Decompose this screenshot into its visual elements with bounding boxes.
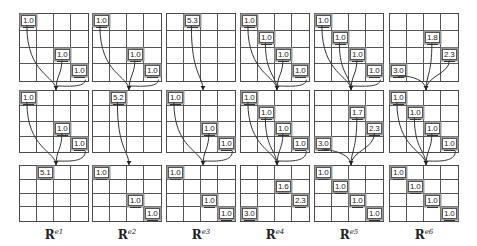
matrix-cell: 1.0 — [71, 64, 88, 81]
matrix-cell — [332, 137, 349, 152]
matrix-cell — [71, 194, 88, 208]
cell-value: 5.2 — [111, 92, 126, 103]
matrix-cell — [184, 48, 201, 65]
matrix-cell — [332, 194, 349, 208]
matrix-cell: 1.0 — [349, 48, 366, 65]
cell-value: 1.0 — [55, 49, 70, 60]
matrix-cell — [20, 31, 37, 48]
label-superscript: e5 — [350, 228, 359, 236]
matrix-cell — [144, 106, 161, 121]
matrix-grid: 1.01.01.0 — [166, 90, 236, 153]
matrix-cell — [110, 48, 127, 65]
matrix-cell — [407, 48, 424, 65]
matrix-cell — [441, 180, 458, 194]
label-base: R — [45, 228, 55, 242]
matrix-cell — [275, 106, 292, 121]
matrix-cell: 3.0 — [390, 64, 407, 81]
matrix-cell — [424, 14, 441, 31]
matrix-cell — [93, 31, 110, 48]
matrix-cell — [275, 91, 292, 106]
label-base: R — [266, 228, 276, 242]
matrix-cell — [241, 166, 258, 180]
matrix-cell — [332, 122, 349, 137]
matrix-cell: 1.0 — [441, 207, 458, 221]
matrix-cell — [110, 180, 127, 194]
matrix-cell — [407, 31, 424, 48]
matrix-grid: 1.01.01.01.0 — [389, 165, 459, 222]
matrix-grid: 1.01.01.0 — [92, 13, 162, 82]
matrix-cell: 3.0 — [241, 207, 258, 221]
matrix-cell — [167, 137, 184, 152]
cell-value: 1.0 — [391, 167, 406, 178]
matrix-cell — [127, 207, 144, 221]
matrix-cell — [127, 106, 144, 121]
matrix-cell — [424, 91, 441, 106]
matrix-cell — [292, 91, 309, 106]
matrix-cell: 1.0 — [349, 194, 366, 208]
matrix-cell — [366, 106, 383, 121]
matrix-cell — [54, 91, 71, 106]
matrix-cell — [292, 122, 309, 137]
matrix-cell — [407, 14, 424, 31]
matrix-cell: 1.0 — [315, 14, 332, 31]
matrix-cell — [424, 137, 441, 152]
matrix-cell — [441, 166, 458, 180]
matrix-cell — [332, 106, 349, 121]
matrix-cell — [20, 137, 37, 152]
cell-value: 1.0 — [219, 208, 234, 219]
matrix-cell — [93, 48, 110, 65]
matrix-cell — [20, 48, 37, 65]
matrix-cell — [424, 207, 441, 221]
matrix-cell — [349, 122, 366, 137]
label-superscript: e1 — [55, 228, 64, 236]
matrix-cell: 1.0 — [93, 14, 110, 31]
matrix-cell — [241, 31, 258, 48]
matrix-cell — [93, 91, 110, 106]
matrix-cell — [349, 14, 366, 31]
matrix-cell — [441, 64, 458, 81]
matrix-cell — [20, 64, 37, 81]
matrix-cell — [275, 166, 292, 180]
matrix-cell — [407, 166, 424, 180]
matrix-cell — [424, 166, 441, 180]
matrix-cell — [241, 137, 258, 152]
matrix-cell — [218, 166, 235, 180]
matrix-cell — [407, 194, 424, 208]
matrix-cell — [407, 64, 424, 81]
matrix-cell — [167, 48, 184, 65]
matrix-cell — [407, 91, 424, 106]
cell-value: 2.3 — [293, 195, 308, 206]
matrix-cell — [315, 194, 332, 208]
matrix-cell: 1.0 — [332, 31, 349, 48]
matrix-cell — [127, 31, 144, 48]
matrix-cell — [37, 122, 54, 137]
matrix-cell — [390, 122, 407, 137]
matrix-cell — [201, 91, 218, 106]
cell-value: 1.0 — [408, 181, 423, 192]
matrix-cell — [184, 137, 201, 152]
matrix-cell: 1.0 — [332, 180, 349, 194]
matrix-cell — [201, 207, 218, 221]
matrix-cell — [292, 14, 309, 31]
cell-value: 1.0 — [145, 65, 160, 76]
matrix-cell: 1.0 — [201, 194, 218, 208]
matrix-cell — [366, 31, 383, 48]
matrix-cell — [241, 194, 258, 208]
matrix-cell — [315, 48, 332, 65]
matrix-cell — [366, 180, 383, 194]
cell-value: 1.0 — [21, 15, 36, 26]
cell-value: 1.0 — [94, 15, 109, 26]
cell-value: 1.0 — [391, 92, 406, 103]
matrix-cell: 1.0 — [407, 106, 424, 121]
matrix-cell — [366, 166, 383, 180]
matrix-cell — [127, 14, 144, 31]
cell-value: 1.0 — [442, 138, 457, 149]
matrix-cell — [332, 14, 349, 31]
matrix-cell — [258, 207, 275, 221]
matrix-cell — [390, 180, 407, 194]
matrix-cell — [184, 91, 201, 106]
matrix-cell — [218, 194, 235, 208]
matrix-cell — [20, 194, 37, 208]
matrix-grid: 1.01.01.0 — [19, 90, 89, 153]
label-base: R — [118, 228, 128, 242]
